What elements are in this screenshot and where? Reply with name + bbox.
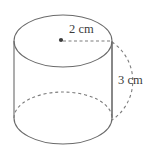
cylinder-bottom-back-dashed-arc xyxy=(14,92,112,118)
radius-annotation: 2 cm xyxy=(59,22,112,42)
cylinder-bottom-front-arc xyxy=(14,118,112,144)
height-label: 3 cm xyxy=(118,73,143,87)
height-annotation: 3 cm xyxy=(112,42,143,120)
cylinder-diagram-svg: 2 cm 3 cm xyxy=(0,0,157,157)
cylinder-figure: 2 cm 3 cm xyxy=(0,0,157,157)
cylinder-body xyxy=(14,15,112,144)
top-face-center-dot xyxy=(59,38,63,42)
radius-label: 2 cm xyxy=(69,22,94,36)
